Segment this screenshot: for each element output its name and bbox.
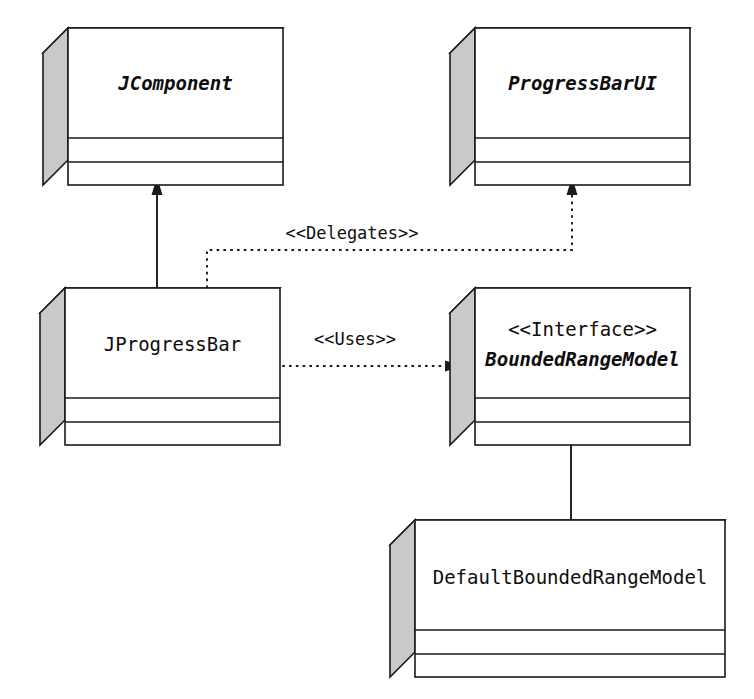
- class-box-defaultboundedrangemodel[interactable]: DefaultBoundedRangeModel: [390, 520, 725, 677]
- uml-class-diagram: JComponent ProgressBarUI JProgressBar: [0, 0, 754, 699]
- edge-dependency-uses: [255, 361, 463, 372]
- diagram-canvas: JComponent ProgressBarUI JProgressBar: [0, 0, 754, 699]
- uses-label: <<Uses>>: [314, 329, 396, 349]
- boundedrangemodel-title: BoundedRangeModel: [484, 348, 679, 370]
- class-box-jprogressbar[interactable]: JProgressBar: [40, 288, 280, 445]
- class-box-progressbarui[interactable]: ProgressBarUI: [450, 28, 690, 185]
- defaultboundedrangemodel-side-face: [390, 520, 415, 677]
- class-box-boundedrangemodel[interactable]: <<Interface>> BoundedRangeModel: [450, 288, 690, 445]
- delegates-label: <<Delegates>>: [285, 223, 418, 243]
- jcomponent-title: JComponent: [117, 72, 232, 94]
- boundedrangemodel-stereotype: <<Interface>>: [508, 318, 657, 340]
- jcomponent-side-face: [43, 28, 68, 185]
- edge-generalization-jprogressbar-jcomponent: [152, 177, 163, 288]
- defaultboundedrangemodel-title: DefaultBoundedRangeModel: [433, 566, 708, 588]
- jprogressbar-title: JProgressBar: [104, 333, 241, 355]
- progressbarui-title: ProgressBarUI: [508, 72, 657, 94]
- progressbarui-side-face: [450, 28, 475, 185]
- class-box-jcomponent[interactable]: JComponent: [43, 28, 283, 185]
- boundedrangemodel-side-face: [450, 288, 475, 445]
- jprogressbar-side-face: [40, 288, 65, 445]
